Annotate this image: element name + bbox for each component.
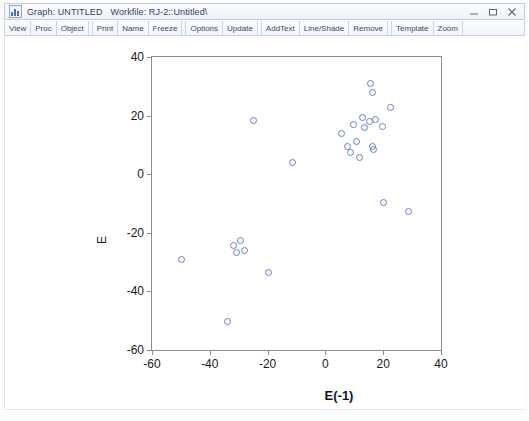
x-axis-tick-label: 0 (322, 357, 329, 371)
y-axis-tick (147, 291, 152, 292)
x-axis-tick-label: -20 (259, 357, 276, 371)
toolbar-button-remove[interactable]: Remove (349, 21, 388, 35)
y-axis-tick-label: -60 (127, 343, 144, 357)
y-axis-tick (147, 233, 152, 234)
scatter-point[interactable] (387, 104, 394, 111)
scatter-point[interactable] (237, 237, 244, 244)
scatter-point[interactable] (367, 80, 374, 87)
x-axis-tick (383, 350, 384, 355)
scatter-point[interactable] (178, 256, 185, 263)
scatter-point[interactable] (405, 208, 412, 215)
toolbar-filler (463, 21, 524, 35)
x-axis-tick (325, 350, 326, 355)
toolbar-button-freeze[interactable]: Freeze (149, 21, 183, 35)
x-axis-tick (210, 350, 211, 355)
toolbar-button-view[interactable]: View (5, 21, 31, 35)
scatter-point[interactable] (372, 116, 379, 123)
scatter-point[interactable] (230, 242, 237, 249)
scatter-point[interactable] (380, 199, 387, 206)
x-axis-tick-label: 20 (377, 357, 390, 371)
toolbar: View Proc Object Print Name Freeze Optio… (4, 21, 525, 36)
scatter-point[interactable] (224, 318, 231, 325)
restore-icon[interactable] (488, 7, 498, 17)
toolbar-button-name[interactable]: Name (118, 21, 148, 35)
close-icon[interactable] (507, 7, 517, 17)
x-axis-title: E(-1) (5, 388, 525, 403)
x-axis-tick (268, 350, 269, 355)
y-axis-tick (147, 116, 152, 117)
scatter-point[interactable] (356, 154, 363, 161)
scatter-point[interactable] (370, 146, 377, 153)
y-axis-tick-label: 40 (131, 50, 144, 64)
y-axis-tick-label: -40 (127, 284, 144, 298)
y-axis-title: E (95, 236, 109, 244)
x-axis-tick (441, 350, 442, 355)
scatter-point[interactable] (347, 149, 354, 156)
scatter-point[interactable] (361, 124, 368, 131)
scatter-point[interactable] (338, 130, 345, 137)
toolbar-button-object[interactable]: Object (57, 21, 89, 35)
toolbar-button-template[interactable]: Template (391, 21, 433, 35)
scatter-point[interactable] (233, 249, 240, 256)
toolbar-button-line-shade[interactable]: Line/Shade (300, 21, 349, 35)
status-bar (4, 409, 525, 417)
y-axis-tick (147, 174, 152, 175)
x-axis-tick-label: 40 (434, 357, 447, 371)
toolbar-button-update[interactable]: Update (223, 21, 258, 35)
graph-pane: E -60-40-2002040-60-40-2002040 E(-1) (4, 37, 525, 417)
y-axis-tick (147, 57, 152, 58)
scatter-point[interactable] (379, 123, 386, 130)
scatter-point[interactable] (250, 117, 257, 124)
y-axis-tick-label: 20 (131, 109, 144, 123)
scatter-point[interactable] (359, 114, 366, 121)
eviews-graph-window: Graph: UNTITLEDWorkfile: RJ-2::Untitled\… (0, 0, 529, 421)
x-axis-tick-label: -40 (201, 357, 218, 371)
window-title-workfile: Workfile: RJ-2::Untitled\ (111, 7, 208, 17)
toolbar-button-proc[interactable]: Proc (31, 21, 56, 35)
scatter-point[interactable] (353, 138, 360, 145)
y-axis-tick-label: 0 (137, 167, 144, 181)
scatter-plot-area[interactable]: -60-40-2002040-60-40-2002040 (151, 56, 442, 351)
x-axis-title-text: E(-1) (325, 388, 354, 403)
title-bar: Graph: UNTITLEDWorkfile: RJ-2::Untitled\ (4, 3, 525, 20)
window-controls (469, 7, 517, 17)
minimize-icon[interactable] (469, 7, 479, 17)
toolbar-button-print[interactable]: Print (92, 21, 118, 35)
y-axis-tick-label: -20 (127, 226, 144, 240)
toolbar-button-zoom[interactable]: Zoom (434, 21, 463, 35)
scatter-point[interactable] (350, 121, 357, 128)
scatter-point[interactable] (369, 89, 376, 96)
window-title-app: Graph: UNTITLED (27, 7, 103, 17)
scatter-point[interactable] (265, 269, 272, 276)
x-axis-tick (152, 350, 153, 355)
window-title: Graph: UNTITLEDWorkfile: RJ-2::Untitled\ (27, 7, 207, 17)
toolbar-button-options[interactable]: Options (185, 21, 223, 35)
scatter-point[interactable] (289, 159, 296, 166)
scatter-point[interactable] (241, 247, 248, 254)
toolbar-button-addtext[interactable]: AddText (261, 21, 300, 35)
graph-window-icon (9, 5, 22, 18)
x-axis-tick-label: -60 (143, 357, 160, 371)
